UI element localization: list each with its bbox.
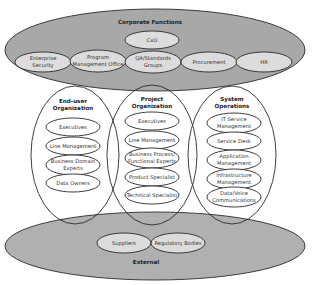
data-owners-label: Data Owners <box>56 180 90 186</box>
end-user-executives-label: Executives <box>59 124 87 130</box>
qa-standards-label-1: QA/Standards <box>135 55 171 61</box>
suppliers-label: Suppliers <box>112 240 136 247</box>
business-domain-experts-label-1: Business Domain <box>51 158 96 164</box>
corporate-functions-group: Corporate Functions CxO Enterprise Secur… <box>5 9 305 91</box>
pmo-label-2: Management Office <box>73 61 124 68</box>
qa-standards-label-2: Groups <box>144 62 163 69</box>
it-service-management-label-1: IT Service <box>221 116 247 122</box>
hr-label: HR <box>260 59 268 65</box>
service-desk-label: Service Desk <box>217 138 251 144</box>
technical-specialist-label: Technical Specialist <box>126 192 177 199</box>
end-user-title-1: End-user <box>59 98 87 104</box>
external-title: External <box>133 259 159 265</box>
data-voice-communications-label-1: Data/Voice <box>220 190 248 196</box>
external-group: Suppliers Regulatory Bodies External <box>5 212 305 280</box>
infrastructure-management-label-1: Infrastructure <box>216 172 252 178</box>
enterprise-security-label-1: Enterprise <box>30 55 57 62</box>
organization-diagram: Corporate Functions CxO Enterprise Secur… <box>0 0 313 285</box>
application-management-label-1: Application <box>220 153 249 160</box>
pmo-label-1: Program <box>87 54 109 61</box>
system-operations-group: System Operations IT Service Management … <box>188 86 276 224</box>
corporate-functions-title: Corporate Functions <box>118 19 183 26</box>
end-user-title-2: Organization <box>53 105 94 112</box>
business-process-experts-label-2: Functional Experts <box>128 158 176 165</box>
product-specialist-label: Product Specialist <box>129 174 175 181</box>
project-line-management-label: Line Management <box>129 137 176 144</box>
business-process-experts-label-1: Business Process/ <box>129 151 175 157</box>
enterprise-security-label-2: Security <box>32 62 53 69</box>
it-service-management-label-2: Management <box>217 123 251 130</box>
data-voice-communications-label-2: Communications <box>212 197 256 203</box>
project-executives-label: Executives <box>138 118 166 124</box>
procurement-label: Procurement <box>192 59 225 65</box>
end-user-line-management-label: Line Management <box>50 143 97 150</box>
system-operations-title-1: System <box>220 96 243 103</box>
infrastructure-management-label-2: Management <box>217 179 251 186</box>
business-domain-experts-label-2: Experts <box>63 165 83 172</box>
application-management-label-2: Management <box>217 160 251 167</box>
project-organization-group: Project Organization Executives Line Man… <box>107 85 197 225</box>
project-title-2: Organization <box>132 103 173 110</box>
system-operations-title-2: Operations <box>215 103 251 110</box>
project-title-1: Project <box>141 96 164 103</box>
end-user-organization-group: End-user Organization Executives Line Ma… <box>31 86 119 224</box>
regulatory-bodies-label: Regulatory Bodies <box>154 240 201 247</box>
cxo-label: CxO <box>147 37 158 43</box>
